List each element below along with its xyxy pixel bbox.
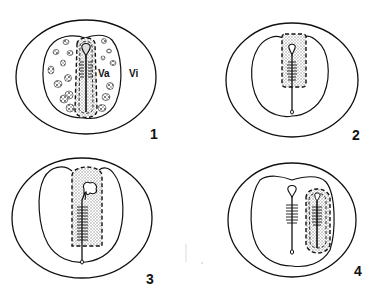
panel-1: Va Vi 1 bbox=[16, 20, 158, 142]
label-area-vitellina: Vi bbox=[129, 68, 138, 79]
panel-number-4: 4 bbox=[354, 263, 362, 279]
scan-artifact bbox=[201, 262, 203, 264]
embryo-left bbox=[286, 186, 298, 255]
embryo-diagram-figure: Va Vi 1 2 bbox=[0, 0, 380, 291]
embryonic-region-dashed bbox=[282, 34, 306, 87]
panel-3: 3 bbox=[12, 158, 154, 287]
panel-number-1: 1 bbox=[150, 126, 158, 142]
panel-2: 2 bbox=[226, 23, 360, 143]
panel-4: 4 bbox=[228, 163, 362, 279]
panel-number-3: 3 bbox=[146, 271, 154, 287]
label-area-vasculosa: Va bbox=[98, 68, 110, 79]
panel-number-2: 2 bbox=[352, 127, 360, 143]
